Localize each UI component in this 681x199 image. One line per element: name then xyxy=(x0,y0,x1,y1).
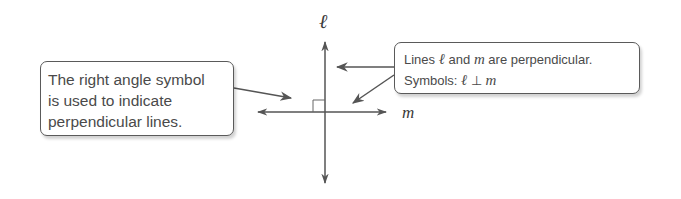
perpendicular-definition-callout: Lines ℓ and m are perpendicular. Symbols… xyxy=(394,42,640,94)
right-callout-pointer-arrow-2 xyxy=(353,75,394,103)
variable-m: m xyxy=(486,72,497,88)
text: and xyxy=(445,52,474,67)
perpendicular-symbol: ⊥ xyxy=(467,73,485,88)
definition-line: Lines ℓ and m are perpendicular. xyxy=(404,49,639,70)
text: Lines xyxy=(404,52,439,67)
line-m-label: m xyxy=(402,103,414,123)
right-angle-symbol xyxy=(313,100,325,112)
right-angle-callout: The right angle symbol is used to indica… xyxy=(40,61,234,136)
perpendicular-lines-diagram: ℓ m The right angle symbol is used to in… xyxy=(0,0,681,199)
symbols-line: Symbols: ℓ ⊥ m xyxy=(404,70,639,91)
left-callout-pointer-arrow xyxy=(234,88,291,98)
line-l-label: ℓ xyxy=(319,10,327,33)
callout-text-line: is used to indicate xyxy=(48,90,233,111)
text: are perpendicular. xyxy=(485,52,593,67)
variable-m: m xyxy=(474,51,485,67)
callout-text-line: perpendicular lines. xyxy=(48,111,233,132)
text: Symbols: xyxy=(404,73,461,88)
callout-text-line: The right angle symbol xyxy=(48,69,233,90)
